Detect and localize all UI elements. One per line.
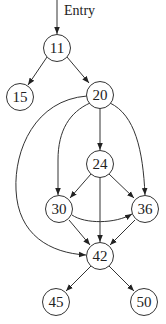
node-30: 30: [46, 196, 73, 223]
node-36: 36: [132, 196, 159, 223]
node-label: 42: [93, 248, 108, 264]
node-50: 50: [131, 289, 158, 316]
edge-20-42: [16, 96, 87, 255]
edge-42-45: [66, 266, 91, 291]
node-label: 15: [13, 89, 28, 105]
node-20: 20: [87, 82, 114, 109]
edges: [16, 57, 145, 291]
node-45: 45: [43, 289, 70, 316]
control-flow-graph: Entry 11 15 20 24 30 36: [0, 0, 166, 324]
edge-30-42: [69, 220, 90, 245]
edge-11-15: [28, 57, 47, 85]
node-label: 11: [50, 40, 64, 56]
edge-20-36: [110, 103, 145, 195]
node-label: 45: [49, 294, 64, 310]
edge-11-20: [67, 57, 89, 83]
node-42: 42: [87, 243, 114, 270]
node-15: 15: [7, 84, 34, 111]
edge-42-50: [109, 266, 134, 291]
edge-30-36: [72, 214, 132, 222]
edge-24-30: [70, 174, 91, 198]
node-label: 20: [93, 87, 108, 103]
node-label: 36: [138, 201, 154, 217]
edge-24-36: [109, 174, 134, 198]
node-label: 30: [52, 201, 67, 217]
edge-36-42: [110, 220, 135, 245]
node-24: 24: [87, 151, 114, 178]
node-label: 50: [137, 294, 152, 310]
node-label: 24: [93, 156, 109, 172]
entry-label: Entry: [64, 3, 95, 18]
node-11: 11: [44, 35, 71, 62]
